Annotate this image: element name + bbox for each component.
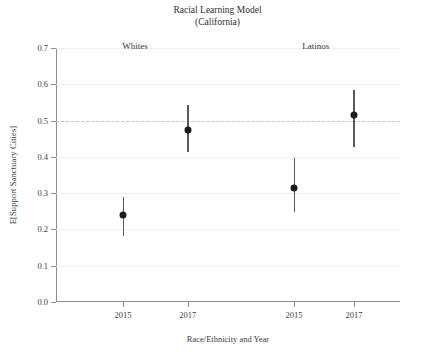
y-axis-tick-label: 0.4 (37, 152, 48, 162)
plot-area: 0.00.10.20.30.40.50.60.72015201720152017 (56, 48, 400, 302)
group-label: Whites (122, 41, 148, 51)
y-axis-label-text: E[Support Sanctuary Cities] (8, 126, 18, 225)
y-axis-tick (51, 48, 56, 49)
y-axis-tick (51, 266, 56, 267)
x-axis-tick (294, 302, 295, 307)
y-axis-tick-label: 0.5 (37, 116, 48, 126)
y-axis-tick-label: 0.3 (37, 188, 48, 198)
y-axis-tick-label: 0.7 (37, 43, 48, 53)
group-label: Latinos (302, 41, 329, 51)
reference-line (56, 121, 400, 122)
y-axis-tick-label: 0.0 (37, 297, 48, 307)
y-axis-tick (51, 229, 56, 230)
x-axis-tick (123, 302, 124, 307)
x-axis-tick-label: 2017 (179, 310, 196, 320)
y-axis-tick (51, 193, 56, 194)
data-point (291, 184, 298, 191)
data-point (350, 112, 357, 119)
x-axis-tick (354, 302, 355, 307)
x-axis-tick (188, 302, 189, 307)
page-title: Racial Learning Model (0, 4, 435, 16)
chart-subtitle: (California) (0, 16, 435, 28)
x-axis-label: Race/Ethnicity and Year (56, 334, 400, 344)
y-axis-tick (51, 84, 56, 85)
x-axis-tick-label: 2015 (115, 310, 132, 320)
y-axis-tick-label: 0.1 (37, 261, 48, 271)
x-axis-line (56, 301, 400, 302)
y-axis-tick (51, 302, 56, 303)
data-point (184, 126, 191, 133)
y-axis-label: E[Support Sanctuary Cities] (6, 48, 20, 302)
racial-learning-model-chart: Racial Learning Model (California) E[Sup… (0, 0, 435, 361)
gridline (56, 229, 400, 231)
gridline (56, 266, 400, 268)
gridline (56, 48, 400, 50)
chart-title-block: Racial Learning Model (California) (0, 4, 435, 28)
y-axis-tick (51, 157, 56, 158)
x-axis-tick-label: 2015 (286, 310, 303, 320)
gridline (56, 193, 400, 195)
data-point (120, 211, 127, 218)
y-axis-tick-label: 0.2 (37, 224, 48, 234)
gridline (56, 157, 400, 159)
gridline (56, 84, 400, 86)
x-axis-tick-label: 2017 (345, 310, 362, 320)
y-axis-tick-label: 0.6 (37, 79, 48, 89)
